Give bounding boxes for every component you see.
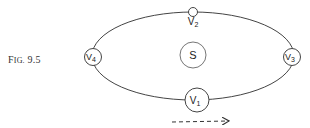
direction-arrow bbox=[172, 121, 229, 122]
orbit-diagram: S V2 V4 V3 V1 bbox=[0, 0, 310, 128]
position-v1: V1 bbox=[185, 88, 209, 112]
sun: S bbox=[180, 42, 206, 68]
position-v4: V4 bbox=[85, 49, 102, 66]
svg-text:V2: V2 bbox=[188, 16, 199, 28]
position-v3: V3 bbox=[284, 49, 301, 66]
position-v2: V2 bbox=[188, 8, 199, 29]
sun-label: S bbox=[189, 49, 196, 61]
